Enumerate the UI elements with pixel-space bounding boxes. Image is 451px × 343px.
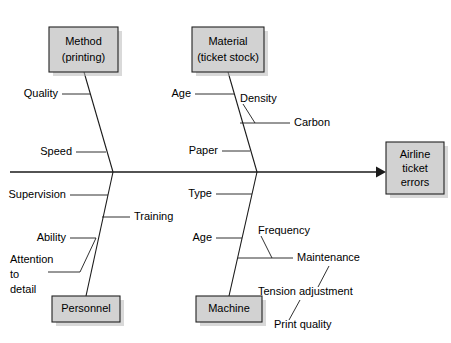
cause-attention-line2: to [10, 268, 19, 280]
personnel-rib [86, 172, 113, 296]
cause-machine-age: Age [192, 231, 212, 243]
method-label-line2: (printing) [62, 51, 105, 63]
cause-supervision: Supervision [9, 188, 66, 200]
spine-arrowhead [376, 167, 386, 178]
effect-label-line2: ticket [402, 162, 428, 174]
cause-tension-adjustment: Tension adjustment [258, 285, 353, 297]
tension-adjustment-connector [318, 266, 329, 287]
method-label-line1: Method [65, 35, 102, 47]
material-box [192, 27, 264, 72]
method-box [49, 27, 118, 72]
effect-label-line3: errors [401, 176, 430, 188]
ability-attention-bracket [80, 238, 96, 272]
cause-density: Density [240, 92, 277, 104]
cause-material-age: Age [171, 87, 191, 99]
cause-ability: Ability [37, 231, 67, 243]
cause-carbon: Carbon [294, 116, 330, 128]
cause-attention-line3: detail [10, 283, 36, 295]
fishbone-canvas: Airline ticket errors Method (printing) … [0, 0, 451, 343]
cause-attention-line1: Attention [10, 253, 53, 265]
fishbone-diagram: Airline ticket errors Method (printing) … [0, 0, 451, 343]
density-connector [243, 104, 255, 123]
cause-type: Type [188, 187, 212, 199]
category-method-group: Method (printing) Quality Speed [24, 27, 122, 172]
cause-frequency: Frequency [258, 224, 310, 236]
category-personnel-group: Personnel Supervision Training Ability A… [9, 172, 174, 326]
machine-label: Machine [208, 302, 250, 314]
personnel-label: Personnel [61, 302, 111, 314]
effect-box-group: Airline ticket errors [386, 142, 448, 198]
cause-maintenance: Maintenance [297, 251, 360, 263]
cause-paper: Paper [189, 144, 219, 156]
material-label-line2: (ticket stock) [197, 51, 259, 63]
material-label-line1: Material [208, 35, 247, 47]
spine-group [10, 167, 386, 178]
material-rib [228, 72, 257, 172]
frequency-connector [261, 236, 272, 258]
cause-training: Training [134, 210, 173, 222]
category-material-group: Material (ticket stock) Age Carbon Densi… [171, 27, 330, 172]
cause-speed: Speed [40, 145, 72, 157]
machine-rib [229, 172, 257, 296]
effect-label-line1: Airline [400, 148, 431, 160]
method-rib [84, 72, 113, 172]
cause-print-quality: Print quality [274, 318, 332, 330]
category-machine-group: Machine Type Age Maintenance Frequency T… [188, 172, 360, 330]
cause-quality: Quality [24, 87, 59, 99]
